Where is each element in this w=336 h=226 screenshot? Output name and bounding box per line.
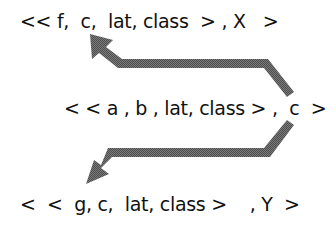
arrow-down-left-icon bbox=[86, 120, 294, 184]
arrows-layer bbox=[0, 0, 336, 226]
arrow-up-left-icon bbox=[90, 34, 294, 97]
